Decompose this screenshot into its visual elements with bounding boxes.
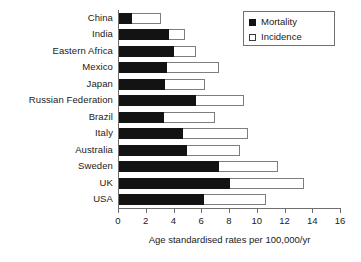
legend-item-mortality: Mortality (249, 15, 334, 29)
x-axis-tick (285, 209, 286, 213)
x-axis-tick-label: 14 (300, 215, 324, 226)
bar-mortality (118, 161, 219, 172)
x-axis-tick (257, 209, 258, 213)
y-axis-tick-label: Mexico (0, 62, 113, 72)
y-axis-line (118, 10, 119, 209)
y-axis-tick-label: India (0, 29, 113, 39)
bar-mortality (118, 29, 169, 40)
bar-group (118, 95, 340, 106)
x-axis-tick (146, 209, 147, 213)
x-axis-tick (174, 209, 175, 213)
x-axis-tick-label: 16 (328, 215, 352, 226)
bar-mortality (118, 79, 165, 90)
bar-mortality (118, 13, 132, 24)
y-axis-category-labels: ChinaIndiaEastern AfricaMexicoJapanRussi… (0, 10, 113, 208)
y-axis-tick-label: Russian Federation (0, 95, 113, 105)
legend-item-label: Mortality (261, 17, 297, 27)
bar-group (118, 161, 340, 172)
x-axis-tick-label: 10 (245, 215, 269, 226)
bar-group (118, 145, 340, 156)
y-axis-tick-label: Eastern Africa (0, 46, 113, 56)
y-axis-tick-label: China (0, 13, 113, 23)
bar-mortality (118, 145, 187, 156)
x-axis-tick (229, 209, 230, 213)
x-axis-tick-label: 8 (217, 215, 241, 226)
bar-mortality (118, 194, 204, 205)
x-axis-tick-label: 0 (106, 215, 130, 226)
y-axis-tick-label: Italy (0, 128, 113, 138)
bar-mortality (118, 128, 183, 139)
x-axis-tick-label: 4 (162, 215, 186, 226)
x-axis-tick (312, 209, 313, 213)
x-axis-tick-label: 6 (189, 215, 213, 226)
bar-group (118, 128, 340, 139)
legend-item-label: Incidence (261, 32, 302, 42)
bar-group (118, 178, 340, 189)
y-axis-tick-label: Sweden (0, 161, 113, 171)
filled-square-icon (249, 19, 256, 26)
x-axis-tick-label: 12 (273, 215, 297, 226)
bar-mortality (118, 62, 167, 73)
bar-chart: ChinaIndiaEastern AfricaMexicoJapanRussi… (0, 0, 361, 262)
y-axis-tick-label: USA (0, 194, 113, 204)
y-axis-tick-label: Japan (0, 79, 113, 89)
bar-mortality (118, 46, 174, 57)
legend-item-incidence: Incidence (249, 30, 334, 44)
bar-group (118, 194, 340, 205)
bar-group (118, 79, 340, 90)
bar-mortality (118, 95, 196, 106)
bar-group (118, 46, 340, 57)
x-axis-tick (201, 209, 202, 213)
bar-group (118, 112, 340, 123)
y-axis-tick-label: Brazil (0, 112, 113, 122)
x-axis-tick (118, 209, 119, 213)
hollow-square-icon (249, 34, 256, 41)
x-axis-tick (340, 209, 341, 213)
bar-group (118, 62, 340, 73)
y-axis-tick-label: Australia (0, 145, 113, 155)
x-axis-title: Age standardised rates per 100,000/yr (118, 234, 341, 245)
bar-mortality (118, 178, 230, 189)
x-axis-tick-label: 2 (134, 215, 158, 226)
bar-mortality (118, 112, 164, 123)
chart-legend: Mortality Incidence (243, 11, 335, 46)
y-axis-tick-label: UK (0, 178, 113, 188)
